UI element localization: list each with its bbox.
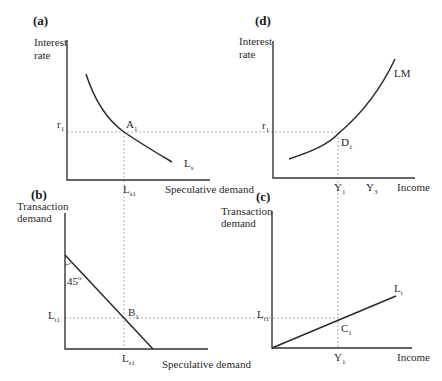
panel-d-y1-tick: Y1 bbox=[334, 181, 346, 196]
panel-d-tag: (d) bbox=[255, 13, 271, 28]
angle-arc bbox=[65, 262, 72, 265]
guide-lines bbox=[65, 132, 339, 349]
panel-a: (a) Interest rate r1 A1 Ls Ls1 Speculati… bbox=[33, 13, 254, 198]
panel-c: (c) Transaction demand Lt1 C1 Lt Y1 Inco… bbox=[221, 189, 430, 366]
point-c1-label: C1 bbox=[341, 322, 352, 337]
panel-b-lt1-tick: Lt1 bbox=[48, 309, 61, 324]
panel-b-ls1-tick: Ls1 bbox=[122, 352, 135, 367]
angle-label: 45o bbox=[67, 274, 82, 287]
panel-d: (d) Interest rate r1 D1 LM Y1 Y3 Income bbox=[239, 13, 430, 196]
panel-a-y-label-line2: rate bbox=[34, 49, 51, 61]
forty-five-degree-line bbox=[65, 255, 153, 349]
panel-d-y-label-line2: rate bbox=[239, 48, 256, 60]
lt-curve-label: Lt bbox=[394, 282, 403, 297]
panel-c-lt1-tick: Lt1 bbox=[257, 308, 270, 323]
panel-a-r1-tick: r1 bbox=[57, 118, 65, 133]
panel-b: (b) Transaction demand 45o Lt1 B1 Ls1 Sp… bbox=[17, 187, 251, 370]
point-a1-label: A1 bbox=[126, 118, 138, 133]
panel-b-y-label-line1: Transaction bbox=[17, 200, 69, 212]
panel-c-x-label: Income bbox=[397, 351, 430, 363]
panel-a-x-label: Speculative demand bbox=[165, 183, 254, 195]
panel-c-y1-tick: Y1 bbox=[334, 351, 346, 366]
panel-c-tag: (c) bbox=[256, 189, 270, 204]
lm-derivation-diagram: (a) Interest rate r1 A1 Ls Ls1 Speculati… bbox=[0, 0, 442, 381]
panel-c-y-label-line2: demand bbox=[221, 217, 256, 229]
panel-c-y-label-line1: Transaction bbox=[221, 205, 273, 217]
transaction-demand-line bbox=[272, 296, 396, 348]
point-d1-label: D1 bbox=[341, 136, 353, 151]
panel-a-ls1-tick: Ls1 bbox=[123, 183, 136, 198]
panel-a-y-label-line1: Interest bbox=[34, 36, 67, 48]
lm-curve-label: LM bbox=[394, 67, 411, 79]
point-b1-label: B1 bbox=[128, 306, 139, 321]
panel-d-x-label: Income bbox=[397, 181, 430, 193]
panel-b-axes bbox=[65, 213, 208, 349]
panel-d-y3-tick: Y3 bbox=[366, 181, 378, 196]
panel-b-y-label-line2: demand bbox=[17, 212, 52, 224]
panel-d-y-label-line1: Interest bbox=[239, 35, 272, 47]
panel-b-x-label: Speculative demand bbox=[162, 358, 251, 370]
ls-curve-label: Ls bbox=[184, 157, 194, 172]
panel-a-tag: (a) bbox=[33, 13, 48, 28]
